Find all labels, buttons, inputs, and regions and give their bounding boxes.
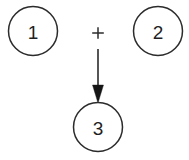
- node-label-1: 1: [28, 22, 39, 43]
- node-operand-1[interactable]: 1: [9, 7, 58, 56]
- node-result-3[interactable]: 3: [74, 103, 123, 152]
- node-label-3: 3: [93, 118, 104, 139]
- arrow-head: [93, 85, 104, 103]
- diagram-canvas: 1 + 2 3: [0, 0, 189, 160]
- node-label-2: 2: [153, 22, 164, 43]
- node-operand-2[interactable]: 2: [134, 7, 183, 56]
- diagram-svg: 1 + 2 3: [0, 0, 189, 160]
- arrow-down-icon: [93, 49, 104, 103]
